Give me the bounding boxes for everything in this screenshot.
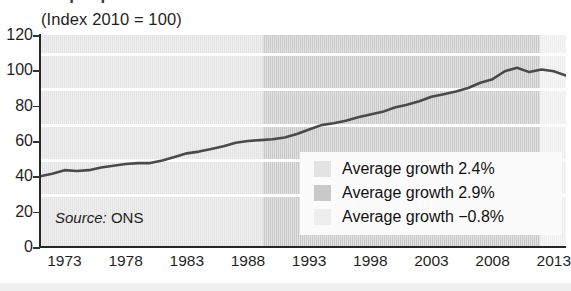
y-axis-labels: 020406080100120 (0, 0, 33, 291)
y-tick-label: 20 (0, 203, 33, 221)
y-tick-label: 0 (0, 238, 33, 256)
chart-title-text: Output per hour (40, 0, 169, 5)
legend-item-label: Average growth −0.8% (342, 208, 504, 226)
y-tick-label: 120 (0, 26, 33, 44)
page-edge-band (0, 283, 571, 291)
x-tick-label: 1988 (231, 252, 265, 270)
legend-item: Average growth −0.8% (300, 205, 562, 229)
y-tick-mark (33, 176, 40, 178)
legend-swatch-icon (314, 185, 331, 201)
y-tick-mark (33, 212, 40, 214)
chart-legend: Average growth 2.4% Average growth 2.9% … (300, 152, 562, 235)
y-tick-mark (33, 141, 40, 143)
y-tick-mark (33, 247, 40, 249)
x-tick-label: 2008 (475, 252, 509, 270)
x-tick-label: 1993 (292, 252, 326, 270)
x-tick-label: 1983 (170, 252, 204, 270)
x-tick-label: 2003 (414, 252, 448, 270)
source-value: ONS (111, 209, 144, 226)
output-per-hour-chart: Output per hour (Index 2010 = 100) 02040… (0, 0, 571, 291)
y-tick-mark (33, 70, 40, 72)
y-tick-label: 60 (0, 132, 33, 150)
legend-item: Average growth 2.4% (300, 157, 562, 181)
legend-swatch-icon (314, 209, 331, 225)
legend-swatch-icon (314, 161, 331, 177)
x-tick-label: 1978 (108, 252, 142, 270)
y-tick-label: 40 (0, 167, 33, 185)
x-axis-line (39, 246, 566, 248)
x-tick-label: 1998 (353, 252, 387, 270)
legend-item-label: Average growth 2.4% (342, 160, 495, 178)
source-label: Source: (55, 209, 107, 226)
chart-subtitle: (Index 2010 = 100) (41, 10, 182, 29)
source-note: Source: ONS (55, 209, 143, 226)
legend-item-label: Average growth 2.9% (342, 184, 495, 202)
x-tick-label: 2013 (537, 252, 571, 270)
x-tick-label: 1973 (47, 252, 81, 270)
y-tick-label: 80 (0, 97, 33, 115)
chart-title-cropped: Output per hour (0, 0, 571, 9)
legend-item: Average growth 2.9% (300, 181, 562, 205)
y-tick-mark (33, 106, 40, 108)
y-tick-label: 100 (0, 61, 33, 79)
y-tick-mark (33, 35, 40, 37)
